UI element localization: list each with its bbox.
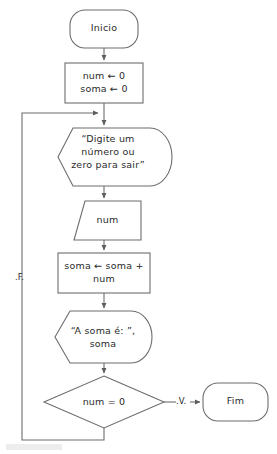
- node-end-shape: [203, 383, 268, 421]
- node-init-shape: [65, 63, 143, 103]
- edge-label-true: .V.: [176, 396, 186, 406]
- edge-label-false: .F.: [15, 272, 24, 282]
- node-read-shape: [74, 201, 141, 240]
- node-output-shape: [55, 311, 152, 363]
- node-prompt-shape: [58, 128, 172, 186]
- page-edge-artifact: [6, 444, 62, 450]
- node-start-shape: [70, 10, 138, 48]
- node-accumulate-shape: [58, 253, 150, 293]
- node-decision-shape: [44, 376, 164, 428]
- flowchart-canvas: Inicio num ← 0 soma ← 0 “Digite um númer…: [0, 0, 277, 454]
- flowchart-svg: [0, 0, 277, 454]
